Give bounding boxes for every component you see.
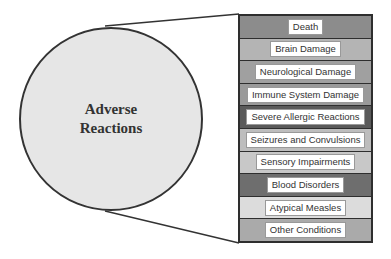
reaction-label: Severe Allergic Reactions	[246, 109, 364, 125]
reaction-row: Blood Disorders	[240, 174, 371, 197]
reaction-label: Neurological Damage	[255, 64, 356, 80]
reaction-label: Atypical Measles	[265, 200, 346, 216]
reaction-label: Death	[288, 19, 323, 35]
reaction-row: Atypical Measles	[240, 197, 371, 220]
adverse-reactions-circle: Adverse Reactions	[19, 27, 203, 211]
reaction-label: Blood Disorders	[267, 177, 345, 193]
reaction-label: Seizures and Convulsions	[246, 132, 366, 148]
reaction-label: Immune System Damage	[247, 87, 364, 103]
reaction-row: Neurological Damage	[240, 61, 371, 84]
reaction-row: Sensory Impairments	[240, 152, 371, 175]
reactions-stack: Death Brain Damage Neurological Damage I…	[238, 14, 373, 243]
reaction-row: Other Conditions	[240, 219, 371, 241]
reaction-label: Other Conditions	[265, 222, 346, 238]
reaction-row: Immune System Damage	[240, 84, 371, 107]
reaction-row: Death	[240, 16, 371, 39]
reaction-row: Seizures and Convulsions	[240, 129, 371, 152]
reaction-row: Severe Allergic Reactions	[240, 106, 371, 129]
circle-title: Adverse Reactions	[80, 100, 143, 138]
reaction-row: Brain Damage	[240, 39, 371, 62]
reaction-label: Sensory Impairments	[256, 154, 356, 170]
reaction-label: Brain Damage	[270, 41, 341, 57]
